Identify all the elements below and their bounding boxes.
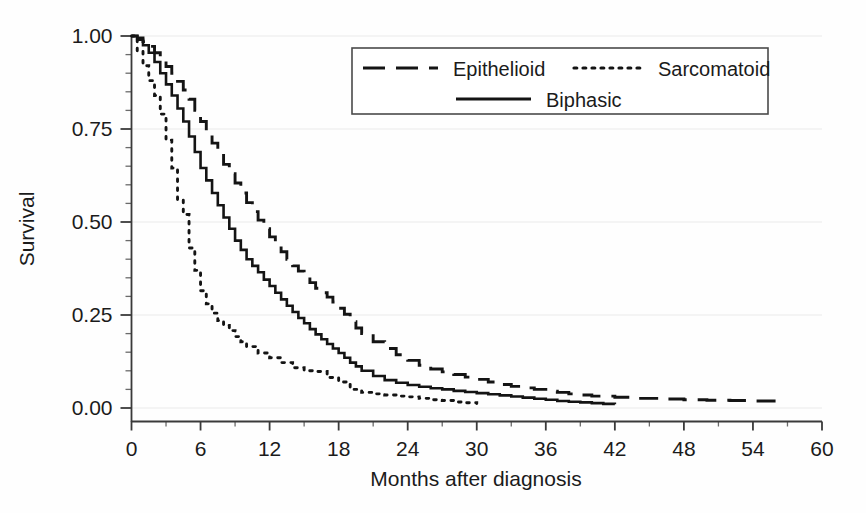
x-tick-label: 6 [195,437,207,460]
x-tick-label: 12 [258,437,281,460]
x-axis-title: Months after diagnosis [370,467,581,490]
y-tick-label: 0.75 [72,117,113,140]
chart-canvas: 06121824303642485460 0.000.250.500.751.0… [0,0,866,513]
x-tick-label: 60 [810,437,833,460]
legend-label-epithelioid: Epithelioid [453,58,545,80]
legend-label-biphasic: Biphasic [546,89,622,111]
x-tick-label: 42 [603,437,626,460]
survival-chart-figure: 06121824303642485460 0.000.250.500.751.0… [0,0,866,513]
x-tick-label: 18 [327,437,350,460]
x-tick-label: 24 [396,437,420,460]
y-tick-label: 1.00 [72,24,113,47]
y-axis-title: Survival [15,192,38,267]
x-tick-label: 0 [126,437,138,460]
x-tick-label: 54 [741,437,765,460]
y-tick-label: 0.50 [72,210,113,233]
x-tick-label: 48 [672,437,695,460]
x-tick-label: 36 [534,437,557,460]
chart-legend: Epithelioid Sarcomatoid Biphasic [352,48,770,114]
x-tick-label: 30 [465,437,488,460]
legend-label-sarcomatoid: Sarcomatoid [658,58,770,80]
y-tick-label: 0.25 [72,303,113,326]
y-tick-label: 0.00 [72,396,113,419]
